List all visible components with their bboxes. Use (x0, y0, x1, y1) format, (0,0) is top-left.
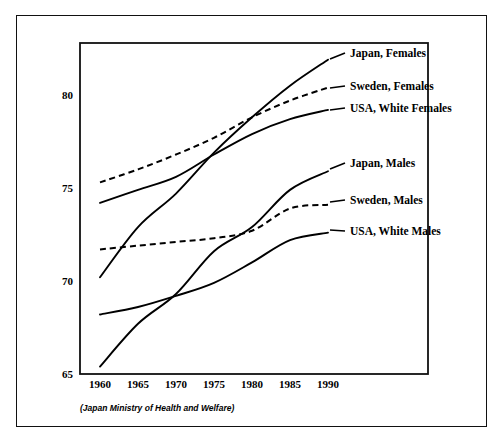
x-tick-1980: 1980 (241, 378, 264, 390)
label-leaders (330, 53, 345, 231)
series-labels: Japan, Females Sweden, Females USA, Whit… (350, 47, 452, 237)
leader-sweden-females (330, 86, 345, 88)
series-label-sweden-males: Sweden, Males (350, 194, 423, 206)
series-label-japan-males: Japan, Males (350, 157, 416, 170)
curve-japan-males (100, 171, 328, 366)
curve-sweden-females (100, 88, 328, 183)
x-tick-1960: 1960 (89, 378, 112, 390)
series-label-japan-females: Japan, Females (350, 47, 427, 60)
series-label-sweden-females: Sweden, Females (350, 80, 434, 92)
y-tick-80: 80 (62, 89, 74, 101)
leader-japan-males (330, 163, 345, 169)
leader-usa-white-males (330, 230, 345, 231)
leader-usa-white-females (330, 108, 345, 110)
y-tick-70: 70 (62, 275, 74, 287)
chart-page: 65 70 75 80 1960 1965 1970 1975 1980 198… (0, 0, 503, 448)
leader-japan-females (330, 53, 345, 59)
life-expectancy-line-chart: 65 70 75 80 1960 1965 1970 1975 1980 198… (0, 0, 503, 448)
x-tick-1985: 1985 (279, 378, 302, 390)
series-label-usa-white-males: USA, White Males (350, 225, 441, 237)
leader-sweden-males (330, 200, 345, 202)
y-axis-ticks: 65 70 75 80 (62, 89, 74, 380)
curve-usa-white-females (100, 110, 328, 203)
plot-box (80, 43, 428, 374)
x-tick-1990: 1990 (317, 378, 340, 390)
source-caption: (Japan Ministry of Health and Welfare) (80, 403, 234, 413)
x-tick-1975: 1975 (203, 378, 226, 390)
curve-usa-white-males (100, 233, 328, 315)
curve-sweden-males (100, 205, 328, 250)
curve-japan-females (100, 60, 328, 278)
x-tick-1965: 1965 (127, 378, 150, 390)
x-tick-1970: 1970 (165, 378, 188, 390)
series-label-usa-white-females: USA, White Females (350, 102, 452, 114)
y-tick-65: 65 (62, 368, 74, 380)
y-tick-75: 75 (62, 182, 74, 194)
x-axis-ticks: 1960 1965 1970 1975 1980 1985 1990 (89, 378, 340, 390)
data-curves (100, 60, 328, 367)
